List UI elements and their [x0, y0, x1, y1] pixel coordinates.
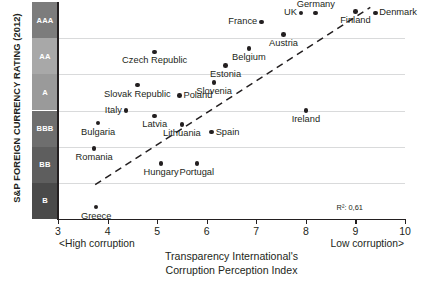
x-tick [58, 219, 59, 224]
x-tick [306, 219, 307, 224]
x-tick [108, 219, 109, 224]
data-point[interactable] [180, 122, 185, 127]
data-point-label: Lithuania [163, 128, 201, 138]
data-point[interactable] [94, 205, 99, 210]
rating-band-label: BBB [36, 124, 53, 133]
gridline [58, 183, 405, 184]
data-point-label: Denmark [379, 7, 417, 17]
data-point[interactable] [299, 11, 304, 16]
x-tick-label: 4 [96, 225, 120, 237]
data-point-label: Portugal [179, 167, 214, 177]
x-tick-label: 8 [294, 225, 318, 237]
data-point[interactable] [259, 20, 264, 25]
data-point-label: Germany [297, 0, 335, 9]
data-point[interactable] [96, 121, 101, 126]
data-point[interactable] [353, 9, 358, 14]
r-squared-annotation: R²: 0,61 [337, 203, 363, 212]
rating-band-a: A [32, 74, 58, 110]
high-corruption-note: <High corruption [59, 238, 135, 249]
data-point[interactable] [304, 108, 309, 113]
rating-band-aaa: AAA [32, 2, 58, 38]
x-tick-label: 6 [195, 225, 219, 237]
x-tick [355, 219, 356, 224]
data-point[interactable] [135, 83, 140, 88]
x-tick-label: 9 [343, 225, 367, 237]
low-corruption-note: Low corruption> [330, 238, 404, 249]
data-point-label: France [228, 16, 257, 26]
data-point-label: Romania [76, 152, 113, 162]
rating-band-label: BB [39, 160, 50, 169]
data-point-label: Slovenia [196, 86, 232, 96]
data-point[interactable] [152, 114, 157, 119]
x-axis-title: Transparency International'sCorruption P… [58, 250, 405, 277]
data-point-label: Italy [105, 105, 122, 115]
x-tick-label: 5 [145, 225, 169, 237]
x-axis-title-line1: Transparency International's [58, 250, 405, 264]
data-point-label: Spain [216, 127, 240, 137]
x-tick-label: 7 [244, 225, 268, 237]
data-point[interactable] [152, 50, 157, 55]
x-axis-title-line2: Corruption Perception Index [58, 264, 405, 278]
plot-area: GreeceRomaniaBulgariaHungaryPortugalSpai… [58, 2, 405, 219]
rating-band-b: B [32, 183, 58, 219]
rating-band-aa: AA [32, 38, 58, 74]
rating-band-label: AA [39, 52, 50, 61]
chart-figure: S&P FOREIGN CURRENCY RATING (2012) AAAAA… [0, 0, 437, 285]
data-point[interactable] [212, 80, 217, 85]
data-point-label: Estonia [210, 69, 241, 79]
x-tick [157, 219, 158, 224]
data-point-label: Finland [340, 15, 371, 25]
data-point-label: Austria [269, 38, 298, 48]
x-tick [405, 219, 406, 224]
data-point[interactable] [313, 11, 318, 16]
data-point[interactable] [209, 130, 214, 135]
y-axis-title: S&P FOREIGN CURRENCY RATING (2012) [9, 0, 25, 218]
rating-band-bbb: BBB [32, 111, 58, 147]
data-point-label: UK [284, 7, 297, 17]
gridline [58, 38, 405, 39]
data-point[interactable] [195, 161, 200, 166]
data-point[interactable] [92, 146, 97, 151]
x-tick-label: 10 [393, 225, 417, 237]
x-tick [207, 219, 208, 224]
data-point-label: Belgium [232, 52, 266, 62]
data-point-label: Slovak Republic [104, 89, 171, 99]
data-point-label: Hungary [144, 167, 179, 177]
gridline [58, 147, 405, 148]
data-point[interactable] [373, 11, 378, 16]
data-point[interactable] [247, 46, 252, 51]
rating-band-label: A [42, 88, 48, 97]
rating-band-label: B [42, 196, 48, 205]
data-point-label: Ireland [292, 114, 320, 124]
rating-band-bb: BB [32, 147, 58, 183]
data-point-label: Czech Republic [122, 55, 187, 65]
rating-band-label: AAA [36, 16, 53, 25]
y-axis-line [57, 2, 59, 219]
data-point[interactable] [159, 161, 164, 166]
data-point[interactable] [124, 108, 129, 113]
data-point-label: Bulgaria [81, 127, 115, 137]
x-tick [256, 219, 257, 224]
x-axis-line [57, 219, 405, 220]
data-point[interactable] [223, 63, 228, 68]
rating-band-column: AAAAAABBBBBB [32, 2, 58, 219]
data-point[interactable] [281, 32, 286, 37]
data-point[interactable] [177, 93, 182, 98]
x-tick-label: 3 [46, 225, 70, 237]
